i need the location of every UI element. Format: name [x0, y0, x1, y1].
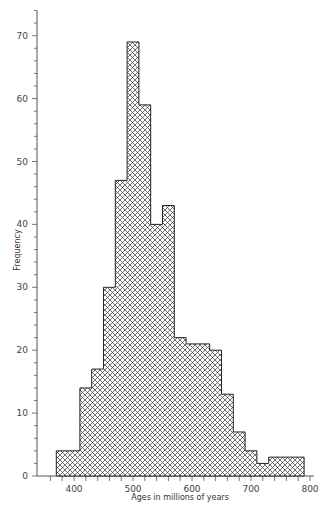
histogram-outline: [56, 42, 304, 476]
y-axis-title: Frequency: [13, 229, 22, 271]
y-tick-label: 10: [17, 408, 29, 418]
histogram-chart: 010203040506070 400500600700800 Frequenc…: [0, 0, 335, 514]
histogram-bars: [56, 42, 304, 476]
y-tick-label: 40: [17, 219, 29, 229]
x-tick-label: 400: [65, 484, 82, 494]
y-tick-label: 20: [17, 345, 29, 355]
x-tick-label: 800: [301, 484, 318, 494]
y-tick-label: 70: [17, 31, 29, 41]
x-axis: 400500600700800: [37, 476, 319, 494]
x-axis-title: Ages in millions of years: [131, 493, 229, 502]
y-tick-label: 30: [17, 282, 29, 292]
y-tick-label: 60: [17, 94, 29, 104]
y-tick-label: 0: [22, 471, 28, 481]
y-tick-label: 50: [17, 157, 29, 167]
x-tick-label: 700: [242, 484, 259, 494]
